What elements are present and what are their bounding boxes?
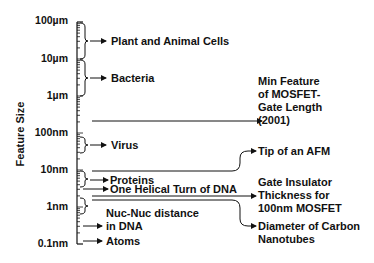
label-gate-insulator-1: Gate Insulator [258,176,332,188]
label-min-feature-1: Min Feature [258,75,320,87]
label-nuc-nuc-line2: in DNA [106,220,143,232]
brace-1nm [80,198,88,214]
label-gate-insulator-2: Thickness for [258,189,330,201]
tick-100um: 100µm [8,14,68,26]
label-bacteria: Bacteria [111,72,154,84]
label-min-feature-2: of MOSFET- [258,88,320,100]
label-atoms: Atoms [106,235,140,247]
tick-0-1nm: 0.1nm [8,237,68,249]
label-afm-tip: Tip of an AFM [258,145,330,157]
label-virus: Virus [111,139,138,151]
tick-100nm: 100nm [8,126,68,138]
brace-plant-cells [80,23,88,59]
label-plant-cells: Plant and Animal Cells [111,35,229,47]
label-min-feature-3: Gate Length [258,101,322,113]
line-afm-tip [92,151,256,171]
axis-ticks [77,24,83,233]
label-dna-turn: One Helical Turn of DNA [110,183,237,195]
tick-10nm: 10nm [8,163,68,175]
label-nanotubes-1: Diameter of Carbon [258,220,360,232]
tick-10um: 10µm [8,52,68,64]
brace-virus [80,137,88,153]
label-nuc-nuc-line1: Nuc-Nuc distance [106,207,199,219]
brace-proteins [80,171,88,187]
label-min-feature-4: (2001) [258,114,290,126]
tick-1nm: 1nm [8,200,68,212]
label-gate-insulator-3: 100nm MOSFET [258,202,342,214]
brace-bacteria [80,60,88,96]
label-nanotubes-2: Nanotubes [258,233,315,245]
tick-1um: 1µm [8,89,68,101]
